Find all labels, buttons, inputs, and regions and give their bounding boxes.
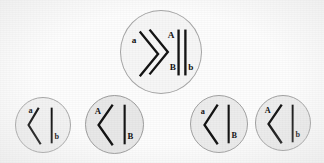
gamete-ab: a b bbox=[15, 97, 71, 153]
label-A-parent: A bbox=[168, 30, 175, 40]
gamete-ab-chromosomes: a b bbox=[16, 98, 70, 152]
label-straight-allele: b bbox=[55, 132, 60, 141]
gamete-aB: a B bbox=[190, 95, 248, 153]
label-B-parent: B bbox=[170, 62, 176, 72]
parent-cell: a A B b bbox=[120, 10, 202, 94]
label-bent-allele: A bbox=[265, 106, 271, 115]
gamete-AB: A B bbox=[85, 95, 144, 154]
label-straight-allele: B bbox=[232, 131, 238, 140]
diagram-canvas: a A B b a b A B a B bbox=[0, 0, 324, 163]
label-bent-allele: A bbox=[95, 106, 102, 116]
gamete-Ab-chromosomes: A b bbox=[256, 96, 310, 150]
chromosome-bent bbox=[205, 106, 218, 144]
gamete-AB-chromosomes: A B bbox=[86, 96, 143, 153]
chromosome-A-bent bbox=[150, 31, 168, 74]
label-b-parent: b bbox=[188, 62, 193, 72]
label-bent-allele: a bbox=[201, 107, 205, 116]
gamete-aB-chromosomes: a B bbox=[191, 96, 247, 152]
label-bent-allele: a bbox=[29, 106, 33, 115]
label-straight-allele: b bbox=[296, 130, 301, 139]
parent-cell-chromosomes: a A B b bbox=[121, 11, 201, 93]
gamete-Ab: A b bbox=[255, 95, 311, 151]
label-straight-allele: B bbox=[128, 131, 134, 141]
label-a-parent: a bbox=[132, 35, 137, 45]
